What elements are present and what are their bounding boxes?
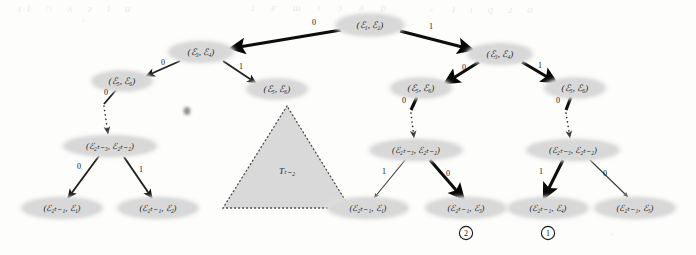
node-left-l2b[interactable]: (ℰ₅, ℰ₆)	[245, 78, 309, 100]
edge-label-root-right: 1	[429, 22, 433, 31]
node-right-leaf3-label: (ℰ₂ₜ₋₁, ℰ₄)	[530, 203, 567, 213]
edge-leftmid-leaf1	[68, 156, 99, 198]
edge-root-right	[400, 31, 470, 49]
edge-label-rightmidb-right: 0	[603, 169, 607, 178]
scan-smudge	[184, 107, 191, 115]
node-right-midb-label: (ℰ₂ₜ₋₃, ℰ₂ₜ₋₂)	[549, 145, 597, 155]
edge-label-leftl2a-down: 0	[104, 88, 108, 97]
node-right-leaf3[interactable]: (ℰ₂ₜ₋₁, ℰ₄)	[506, 197, 590, 220]
edge-rightl2a-down	[411, 97, 417, 138]
edge-label-rightmidb-left: 1	[539, 167, 543, 176]
edge-label-rightl2a-down: 0	[402, 96, 406, 105]
edge-label-rightmida-right: 0	[446, 169, 450, 178]
edge-rightmidb-leaf3	[545, 160, 563, 196]
node-left-leaf2-label: (ℰ₂ₜ₋₁, ℰ₂)	[140, 203, 177, 213]
node-right-leaf2-label: (ℰ₂ₜ₋₁, ℰ₃)	[448, 203, 485, 213]
node-left-l2a-label: (ℰ₅, ℰ₆)	[109, 76, 136, 86]
node-left-leaf1[interactable]: (ℰ₂ₜ₋₁, ℰ₁)	[20, 197, 104, 220]
tree-diagram: Tₜ₋₂ (ℰ₁, ℰ₂) (ℰ₃, ℰ₄) (ℰ₅, ℰ₆) (ℰ₅, ℰ₆)	[0, 0, 696, 255]
node-right-mida-label: (ℰ₂ₜ₋₃, ℰ₂ₜ₋₂)	[392, 145, 440, 155]
node-right-l2b[interactable]: (ℰ₅, ℰ₆)	[543, 77, 607, 99]
subtree-triangle-label: Tₜ₋₂	[279, 166, 295, 176]
edge-rightl2b-down	[566, 97, 571, 138]
circled-marker-two: 2	[459, 226, 472, 239]
node-right-l1-label: (ℰ₃, ℰ₄)	[487, 49, 514, 59]
edge-label-rightl1-left: 0	[462, 63, 466, 72]
edge-leftmid-leaf2	[124, 157, 152, 198]
node-left-l1[interactable]: (ℰ₃, ℰ₄)	[167, 41, 235, 64]
edge-rightmida-leaf1	[374, 159, 406, 198]
node-left-l2a[interactable]: (ℰ₅, ℰ₆)	[90, 70, 154, 92]
node-left-leaf1-label: (ℰ₂ₜ₋₁, ℰ₁)	[44, 203, 81, 213]
node-right-leaf2[interactable]: (ℰ₂ₜ₋₁, ℰ₃)	[424, 197, 508, 220]
figure-canvas: ıl ∩ ʌ ǝ ʇ u ɹ ɐ ɯ ı ɔ ǝ p ʇ ı q ɹ o	[0, 0, 696, 255]
edge-label-leftmid-left: 0	[77, 162, 81, 171]
node-right-leaf1[interactable]: (ℰ₂ₜ₋₁, ℰ₁)	[326, 197, 410, 220]
node-right-l1[interactable]: (ℰ₃, ℰ₄)	[466, 43, 534, 66]
node-left-mid[interactable]: (ℰ₂ₜ₋₃, ℰ₂ₜ₋₂)	[62, 135, 158, 158]
node-root-label: (ℰ₁, ℰ₂)	[357, 20, 384, 30]
edge-label-rightmida-left: 1	[382, 167, 386, 176]
edge-label-leftmid-right: 1	[139, 165, 143, 174]
node-left-mid-label: (ℰ₂ₜ₋₃, ℰ₂ₜ₋₂)	[86, 141, 134, 151]
node-right-l2b-label: (ℰ₅, ℰ₆)	[562, 83, 589, 93]
node-left-l1-label: (ℰ₃, ℰ₄)	[188, 47, 215, 57]
edge-label-root-left: 0	[312, 18, 316, 27]
node-right-l2a[interactable]: (ℰ₅, ℰ₆)	[389, 77, 453, 99]
circled-marker-two-text: 2	[464, 229, 468, 238]
edge-label-leftl1-right: 1	[239, 62, 243, 71]
subtree-triangle: Tₜ₋₂	[223, 106, 350, 208]
node-root[interactable]: (ℰ₁, ℰ₂)	[334, 13, 406, 37]
node-left-leaf2[interactable]: (ℰ₂ₜ₋₁, ℰ₂)	[116, 197, 200, 220]
node-right-leaf4[interactable]: (ℰ₂ₜ₋₁, ℰ₅)	[593, 197, 677, 220]
edge-label-leftl1-left: 0	[161, 58, 165, 67]
edge-root-left	[233, 30, 341, 48]
edge-rightmidb-leaf4	[590, 160, 628, 197]
edge-label-rightl2b-down: 0	[556, 96, 560, 105]
node-right-leaf4-label: (ℰ₂ₜ₋₁, ℰ₅)	[617, 203, 654, 213]
edge-label-rightl1-right: 1	[538, 61, 542, 70]
edge-rightmida-leaf2	[430, 160, 462, 197]
node-right-midb[interactable]: (ℰ₂ₜ₋₃, ℰ₂ₜ₋₂)	[525, 139, 621, 162]
node-right-mida[interactable]: (ℰ₂ₜ₋₃, ℰ₂ₜ₋₂)	[368, 139, 464, 162]
node-right-leaf1-label: (ℰ₂ₜ₋₁, ℰ₁)	[350, 203, 387, 213]
node-left-l2b-label: (ℰ₅, ℰ₆)	[264, 84, 291, 94]
circled-marker-one-text: 1	[546, 229, 550, 238]
circled-marker-one: 1	[541, 226, 554, 239]
node-right-l2a-label: (ℰ₅, ℰ₆)	[408, 83, 435, 93]
